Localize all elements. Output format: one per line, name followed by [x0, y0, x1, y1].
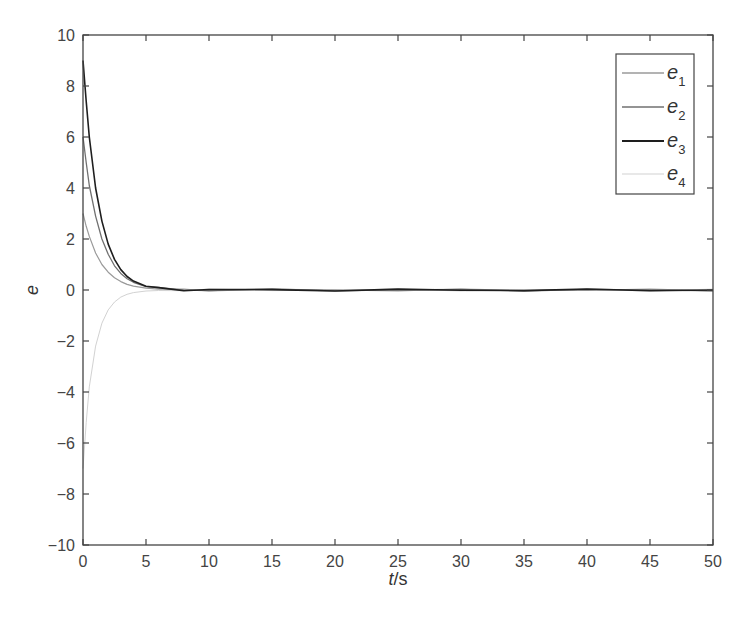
y-tick-label: 8: [66, 78, 75, 95]
x-tick-label: 40: [578, 553, 596, 570]
x-tick-label: 45: [641, 553, 659, 570]
y-tick-label: −6: [57, 435, 75, 452]
y-tick-label: 0: [66, 282, 75, 299]
line-chart: 05101520253035404550 −10−8−6−4−20246810 …: [0, 0, 743, 628]
x-tick-label: 50: [704, 553, 722, 570]
legend: e1e2e3e4: [616, 54, 694, 194]
y-tick-label: 2: [66, 231, 75, 248]
y-tick-label: 10: [57, 27, 75, 44]
x-tick-label: 15: [263, 553, 281, 570]
x-tick-label: 0: [79, 553, 88, 570]
y-axis-label: e: [22, 285, 42, 295]
x-tick-label: 25: [389, 553, 407, 570]
y-tick-label: −8: [57, 486, 75, 503]
x-tick-label: 35: [515, 553, 533, 570]
y-tick-label: −10: [48, 537, 75, 554]
y-tick-label: 4: [66, 180, 75, 197]
x-axis-label: t/s: [388, 569, 407, 589]
y-tick-label: 6: [66, 129, 75, 146]
x-tick-label: 10: [200, 553, 218, 570]
x-tick-label: 30: [452, 553, 470, 570]
y-tick-label: −4: [57, 384, 75, 401]
y-tick-label: −2: [57, 333, 75, 350]
x-tick-label: 20: [326, 553, 344, 570]
x-tick-label: 5: [142, 553, 151, 570]
